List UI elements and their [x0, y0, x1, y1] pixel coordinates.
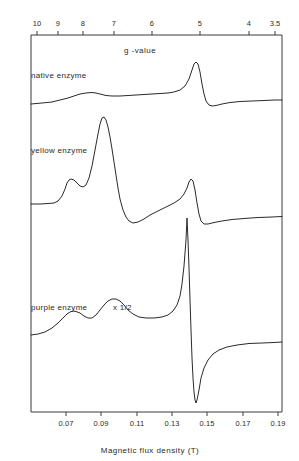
top-axis — [31, 31, 282, 35]
bottom-tick-label-4: 0.15 — [200, 419, 215, 428]
bottom-axis — [66, 412, 278, 416]
trace-multiplier-2: x 1/2 — [113, 303, 132, 312]
spectrum-trace-yellow-enzyme — [31, 117, 282, 224]
spectra-traces — [31, 62, 282, 403]
bottom-tick-label-0: 0.07 — [59, 419, 74, 428]
plot-frame — [31, 35, 282, 412]
trace-label-2: purple enzyme — [31, 303, 87, 312]
bottom-tick-label-3: 0.13 — [165, 419, 180, 428]
top-tick-label-4: 6 — [150, 19, 154, 28]
bottom-tick-label-2: 0.11 — [130, 419, 144, 428]
top-tick-label-0: 10 — [33, 19, 42, 28]
spectrum-trace-native-enzyme — [31, 62, 282, 106]
top-tick-label-5: 5 — [198, 19, 202, 28]
plot-canvas — [0, 0, 299, 461]
bottom-tick-label-5: 0.17 — [236, 419, 251, 428]
top-tick-label-1: 9 — [56, 19, 60, 28]
top-tick-label-2: 8 — [81, 19, 85, 28]
bottom-tick-label-1: 0.09 — [94, 419, 109, 428]
bottom-tick-label-6: 0.19 — [271, 419, 286, 428]
epr-spectra-figure: 109876543.5 g -value 0.070.090.110.130.1… — [0, 0, 299, 461]
top-tick-label-7: 3.5 — [270, 19, 281, 28]
top-axis-title: g -value — [124, 46, 156, 55]
top-tick-label-3: 7 — [112, 19, 116, 28]
trace-label-0: native enzyme — [31, 71, 86, 80]
top-tick-label-6: 4 — [247, 19, 251, 28]
trace-label-1: yellow enzyme — [31, 146, 87, 155]
bottom-axis-title: Magnetic flux density (T) — [101, 446, 199, 455]
